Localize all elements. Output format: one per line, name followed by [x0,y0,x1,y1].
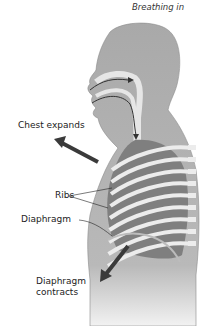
vertebra [188,157,196,162]
vertebra [188,205,196,210]
diaphragm-contracts-line1: Diaphragm [36,276,86,287]
breathing-diagram [0,0,209,326]
diaphragm-contracts-line2: contracts [36,287,86,298]
vertebra [188,217,196,222]
vertebra [188,145,196,150]
vertebra [188,241,196,246]
chest-expands-label: Chest expands [18,120,85,131]
vertebra [188,193,196,198]
chest-expands-arrow [62,143,98,162]
diaphragm-contracts-label: Diaphragm contracts [36,276,86,298]
vertebra [188,169,196,174]
vertebra [188,181,196,186]
diaphragm-label: Diaphragm [21,214,71,225]
ribs-label: Ribs [55,190,74,201]
vertebra [188,229,196,234]
